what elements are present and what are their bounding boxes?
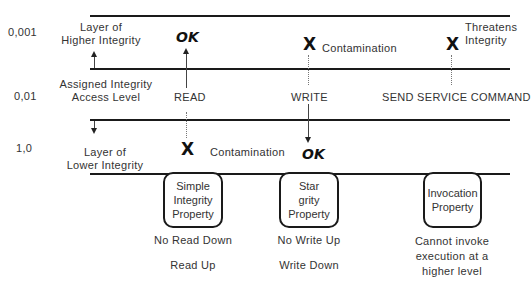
read-up-arrow-icon [183,48,189,54]
write-up-dotted-line [308,55,309,85]
simple-integrity-property-box: Simple Integrity Property [163,172,223,228]
read-down-x-icon: X [181,139,194,159]
send-service-command-label: SEND SERVICE COMMAND [382,91,531,103]
invoke-dotted-line [451,55,452,85]
invoke-up-note: Threatens Integrity [465,21,517,47]
star-rule-1: No Write Up [254,234,364,246]
layer-line-assigned [90,68,510,70]
write-down-ok: OK [302,146,325,162]
write-up-note: Contamination [322,42,397,54]
read-up-ok: OK [176,29,199,45]
write-down-arrow-icon [305,137,311,143]
invocation-property-box: Invocation Property [423,172,482,228]
up-arrow-icon [91,51,97,57]
read-down-dotted-line [186,112,187,138]
higher-layer-label: Layer of Higher Integrity [56,21,146,47]
layer-line-assigned-bottom [90,119,510,121]
simple-rule-1: No Read Down [138,234,248,246]
read-up-arrow-shaft [186,52,187,88]
assigned-level-label: Assigned Integrity Access Level [56,78,156,104]
star-integrity-property-box: Star grity Property [279,172,339,228]
level-value-assigned: 0,01 [14,90,37,102]
read-operation-label: READ [174,91,206,103]
down-arrow-icon [91,128,97,134]
write-operation-label: WRITE [291,91,328,103]
write-up-x-icon: X [303,34,316,54]
level-value-higher: 0,001 [8,26,37,38]
invocation-rule: Cannot invoke execution at a higher leve… [397,234,507,279]
read-down-note: Contamination [210,146,285,158]
level-value-lower: 1,0 [16,142,32,154]
star-rule-2: Write Down [254,259,364,271]
lower-layer-label: Layer of Lower Integrity [60,146,150,172]
write-down-arrow-shaft [308,104,309,138]
layer-line-top [90,15,510,17]
simple-rule-2: Read Up [138,259,248,271]
invoke-up-x-icon: X [446,34,459,54]
